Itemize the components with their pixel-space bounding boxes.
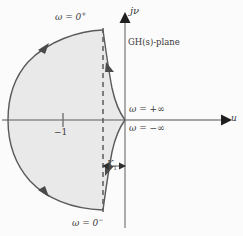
label-omega-zero-minus-superscript: − [98, 216, 103, 223]
label-omega-zero-plus-superscript: + [81, 10, 86, 17]
label-imaginary-axis-nu: ν [133, 5, 139, 16]
label-critical-point: −1 [54, 128, 67, 137]
label-omega-zero-minus: ω = 0− [72, 217, 103, 228]
label-imaginary-axis: jν [130, 6, 139, 16]
direction-arrow-upper-right-icon [105, 62, 114, 72]
label-gh-plane: GH(s)-plane [128, 38, 180, 47]
label-gain-k1-subscript: 1 [113, 165, 117, 171]
label-omega-plus-infinity: ω = +∞ [129, 105, 165, 114]
label-real-axis: u [231, 114, 237, 123]
label-gain-k1: K1 [107, 160, 117, 171]
label-omega-zero-minus-text: ω = 0 [72, 218, 98, 228]
label-omega-zero-plus: ω = 0+ [55, 11, 86, 22]
label-omega-zero-plus-text: ω = 0 [55, 12, 81, 22]
label-omega-minus-infinity: ω = −∞ [129, 124, 165, 133]
nyquist-diagram-canvas [0, 0, 243, 236]
imaginary-axis-arrowhead [120, 12, 131, 23]
nyquist-plot-figure: ω = 0+ ω = 0− jν GH(s)-plane ω = +∞ ω = … [0, 0, 243, 236]
